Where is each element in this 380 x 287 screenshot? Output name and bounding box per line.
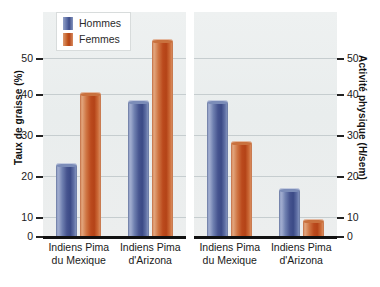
y-tick-right-40 <box>337 94 344 96</box>
y-tick-label-right-20: 20 <box>347 171 359 182</box>
x-axis-line-right <box>194 236 337 239</box>
bar-mexique-hommes-activity <box>207 102 228 237</box>
y-tick-label-right-50: 50 <box>347 53 359 64</box>
x-axis-line-left <box>43 236 186 239</box>
x-axis-labels-right: Indiens Pima du Mexique Indiens Pima d'A… <box>194 241 337 267</box>
legend-item-femmes: Femmes <box>63 33 121 46</box>
y-tick-right-10 <box>337 217 344 219</box>
y-tick-right-50 <box>337 58 344 60</box>
bar-mexique-femmes-activity <box>231 143 252 237</box>
bar-group-container-right <box>194 12 337 237</box>
y-tick-left-30 <box>36 135 43 137</box>
y-tick-left-20 <box>36 176 43 178</box>
y-tick-label-left-0: 0 <box>27 231 33 242</box>
x-label-arizona-left-line1: Indiens Pima <box>115 241 187 254</box>
chart-panel-fat-percentage: Taux de graisse (%) <box>0 0 190 287</box>
x-label-mexique-right-line2: du Mexique <box>194 254 266 267</box>
x-label-arizona-left-line2: d'Arizona <box>115 254 187 267</box>
bar-group-mexique-right <box>194 12 266 237</box>
y-axis-title-right: Activité physique (H/sem) <box>357 48 368 188</box>
y-axis-title-left: Taux de graisse (%) <box>13 48 24 188</box>
x-label-mexique-right-line1: Indiens Pima <box>194 241 266 254</box>
bar-mexique-femmes-fat <box>80 94 101 237</box>
y-tick-label-left-30: 30 <box>21 130 33 141</box>
bar-arizona-hommes-fat <box>128 102 149 237</box>
y-tick-right-30 <box>337 135 344 137</box>
x-label-arizona-left: Indiens Pima d'Arizona <box>115 241 187 267</box>
y-tick-label-left-10: 10 <box>21 212 33 223</box>
y-tick-label-right-0: 0 <box>347 231 353 242</box>
legend: Hommes Femmes <box>56 12 131 51</box>
bar-arizona-femmes-activity <box>303 221 324 237</box>
legend-label-hommes: Hommes <box>79 18 121 29</box>
y-tick-label-left-40: 40 <box>21 89 33 100</box>
x-axis-labels-left: Indiens Pima du Mexique Indiens Pima d'A… <box>43 241 186 267</box>
legend-swatch-hommes-icon <box>63 17 73 30</box>
x-label-arizona-right-line1: Indiens Pima <box>266 241 338 254</box>
bar-group-arizona-right <box>266 12 338 237</box>
y-tick-label-right-10: 10 <box>347 212 359 223</box>
bar-arizona-femmes-fat <box>152 41 173 237</box>
y-tick-right-0 <box>337 236 344 238</box>
chart-panel-physical-activity: Activité physique (H/sem) <box>190 0 380 287</box>
x-label-mexique-left-line1: Indiens Pima <box>43 241 115 254</box>
y-tick-label-right-30: 30 <box>347 130 359 141</box>
legend-item-hommes: Hommes <box>63 17 121 30</box>
x-label-mexique-left: Indiens Pima du Mexique <box>43 241 115 267</box>
bar-mexique-hommes-fat <box>56 165 77 237</box>
x-label-mexique-right: Indiens Pima du Mexique <box>194 241 266 267</box>
y-tick-right-20 <box>337 176 344 178</box>
y-tick-left-0 <box>36 236 43 238</box>
bar-arizona-hommes-activity <box>279 190 300 237</box>
y-tick-left-50 <box>36 58 43 60</box>
y-tick-label-right-40: 40 <box>347 89 359 100</box>
x-label-arizona-right: Indiens Pima d'Arizona <box>266 241 338 267</box>
figure-two-panel-bar-chart: Taux de graisse (%) <box>0 0 380 287</box>
y-tick-label-left-20: 20 <box>21 171 33 182</box>
plot-area-right <box>194 12 337 237</box>
legend-swatch-femmes-icon <box>63 33 73 46</box>
y-tick-left-10 <box>36 217 43 219</box>
x-label-mexique-left-line2: du Mexique <box>43 254 115 267</box>
x-label-arizona-right-line2: d'Arizona <box>266 254 338 267</box>
y-tick-left-40 <box>36 94 43 96</box>
y-tick-label-left-50: 50 <box>21 53 33 64</box>
legend-label-femmes: Femmes <box>79 34 120 45</box>
